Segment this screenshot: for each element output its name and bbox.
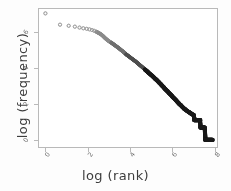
- chart-root: log (rank) log (frequency) 024680246: [0, 0, 231, 191]
- scatter-plot-canvas: [0, 0, 231, 191]
- x-axis-title: log (rank): [0, 168, 231, 183]
